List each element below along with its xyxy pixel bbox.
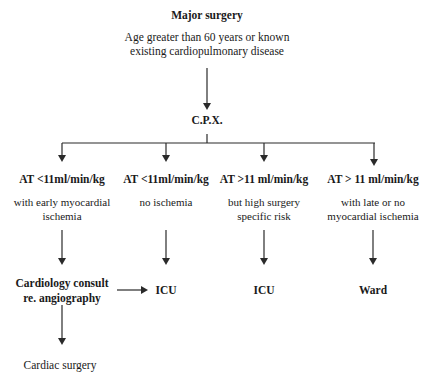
arrow-to-branch-2 xyxy=(162,143,170,162)
branch-1-condition-line-1: with early myocardial xyxy=(2,195,122,209)
arrow-to-branch-1 xyxy=(58,143,66,162)
arrow-branch-1-to-outcome xyxy=(58,230,66,265)
outcome-icu-branch-2: ICU xyxy=(146,283,186,298)
branch-4-condition-line-2: myocardial ischemia xyxy=(313,209,430,223)
arrow-root-to-cpx xyxy=(203,68,211,110)
root-title: Major surgery xyxy=(107,8,307,23)
arrow-branch-3-to-outcome xyxy=(260,230,268,265)
branch-4-condition-line-1: with late or no xyxy=(313,195,430,209)
branch-1-condition-line-2: ischemia xyxy=(2,209,122,223)
branch-2-threshold: AT <11ml/min/kg xyxy=(111,172,221,187)
cpx-node: C.P.X. xyxy=(167,113,247,128)
arrow-to-branch-4 xyxy=(370,143,378,166)
branch-bus xyxy=(62,134,375,143)
branch-4-threshold: AT > 11 ml/min/kg xyxy=(313,172,430,187)
arrow-to-branch-3 xyxy=(260,143,268,162)
branch-3-threshold: AT >11 ml/min/kg xyxy=(207,172,321,187)
outcome-ward: Ward xyxy=(348,283,398,298)
branch-1-threshold: AT <11ml/min/kg xyxy=(2,172,122,187)
branch-3-condition-line-1: but high surgery xyxy=(207,195,321,209)
root-criteria-line-2: existing cardiopulmonary disease xyxy=(87,44,327,59)
final-cardiac-surgery: Cardiac surgery xyxy=(10,358,110,373)
outcome-cardiology-consult-line-2: re. angiography xyxy=(2,291,122,306)
arrow-branch-2-to-outcome xyxy=(162,230,170,265)
root-criteria-line-1: Age greater than 60 years or known xyxy=(87,30,327,45)
branch-2-condition-line-1: no ischemia xyxy=(111,195,221,209)
arrow-cardiology-to-cardiac-surgery xyxy=(58,305,66,345)
outcome-icu-branch-3: ICU xyxy=(244,283,284,298)
branch-3-condition-line-2: specific risk xyxy=(207,209,321,223)
outcome-cardiology-consult-line-1: Cardiology consult xyxy=(2,276,122,291)
arrow-branch-4-to-outcome xyxy=(369,230,377,265)
